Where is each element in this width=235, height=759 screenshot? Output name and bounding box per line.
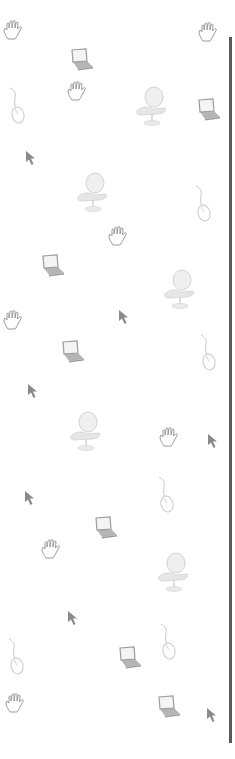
laptop-icon xyxy=(37,254,65,278)
chair-icon xyxy=(135,85,169,129)
hand-icon xyxy=(3,20,25,40)
laptop-icon xyxy=(57,340,85,364)
cursor-icon xyxy=(25,150,37,166)
mouse-icon xyxy=(192,184,214,222)
laptop-icon xyxy=(114,646,142,670)
mouse-icon xyxy=(6,86,28,124)
hand-icon xyxy=(198,22,220,42)
laptop-icon xyxy=(193,98,221,122)
vertical-divider-rule xyxy=(229,37,232,743)
cursor-icon xyxy=(206,707,218,723)
cursor-icon xyxy=(24,490,36,506)
chair-icon xyxy=(76,171,110,215)
chair-icon xyxy=(157,551,191,595)
hand-icon xyxy=(159,427,181,447)
hand-icon xyxy=(3,310,25,330)
hand-icon xyxy=(5,693,27,713)
hand-icon xyxy=(67,81,89,101)
mouse-icon xyxy=(5,637,27,675)
mouse-icon xyxy=(197,333,219,371)
hand-icon xyxy=(41,539,63,559)
decorative-background xyxy=(0,0,235,759)
laptop-icon xyxy=(90,516,118,540)
cursor-icon xyxy=(118,309,130,325)
laptop-icon xyxy=(66,48,94,72)
cursor-icon xyxy=(207,433,219,449)
cursor-icon xyxy=(67,610,79,626)
mouse-icon xyxy=(155,475,177,513)
laptop-icon xyxy=(153,695,181,719)
mouse-icon xyxy=(157,622,179,660)
cursor-icon xyxy=(27,383,39,399)
chair-icon xyxy=(163,268,197,312)
hand-icon xyxy=(108,226,130,246)
chair-icon xyxy=(69,410,103,454)
